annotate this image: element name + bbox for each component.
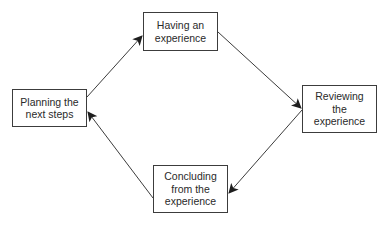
arrow-concluding-to-planning [88, 112, 153, 198]
node-label: Concluding from the experience [164, 170, 217, 208]
node-planning-the-next-steps: Planning the next steps [12, 89, 87, 127]
experiential-learning-cycle-diagram: Having an experience Reviewing the exper… [0, 0, 390, 226]
node-label: Reviewing the experience [314, 90, 365, 128]
node-label: Planning the next steps [20, 96, 78, 121]
arrow-having-to-reviewing [218, 32, 301, 108]
node-reviewing-the-experience: Reviewing the experience [302, 85, 377, 133]
node-label: Having an experience [155, 19, 206, 44]
node-concluding-from-the-experience: Concluding from the experience [153, 165, 228, 213]
arrow-planning-to-having [87, 36, 142, 97]
node-having-an-experience: Having an experience [143, 12, 218, 51]
arrow-reviewing-to-concluding [229, 110, 302, 193]
